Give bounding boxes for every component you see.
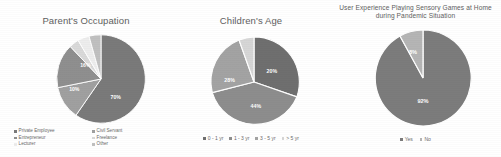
- pie-chart-user-experience: 92% 8%: [373, 28, 473, 128]
- pie-chart-childrens-age: 20% 44% 28%: [207, 35, 301, 129]
- legend-label-1-3-yr: 1 - 3 yr: [234, 136, 250, 141]
- legend-item-freelance[interactable]: Freelance: [92, 136, 170, 141]
- pie-label-1-3-yr: 44%: [251, 103, 262, 109]
- pie-svg-parents-occupation: 70% 10% 16%: [55, 33, 147, 125]
- legend-item-over-5-yr[interactable]: > 5 yr: [282, 136, 299, 141]
- legend-item-yes[interactable]: Yes: [400, 137, 413, 142]
- legend-label-lecturer: Lecturer: [19, 142, 36, 147]
- legend-item-entrepreneur[interactable]: Entrepreneur: [14, 136, 92, 141]
- legend-swatch-icon-civil-servant: [92, 130, 95, 133]
- legend-swatch-icon-entrepreneur: [14, 137, 17, 140]
- pie-label-private-employee: 70%: [111, 94, 122, 100]
- legend-item-3-5-yr[interactable]: 3 - 5 yr: [255, 136, 275, 141]
- legend-label-over-5-yr: > 5 yr: [286, 136, 299, 141]
- legend-swatch-icon-over-5-yr: [282, 137, 285, 140]
- legend-item-no[interactable]: No: [420, 137, 431, 142]
- legend-swatch-icon-other: [92, 143, 95, 146]
- legend-item-0-1-yr[interactable]: 0 - 1 yr: [203, 136, 223, 141]
- legend-item-1-3-yr[interactable]: 1 - 3 yr: [229, 136, 249, 141]
- pie-label-0-1-yr: 20%: [267, 68, 278, 74]
- pie-label-no: 8%: [409, 49, 417, 55]
- chart-panel-childrens-age: Children's Age 20% 44% 28%: [172, 0, 330, 157]
- pie-slices: [57, 35, 146, 123]
- pie-label-yes: 92%: [417, 98, 428, 104]
- legend-item-civil-servant[interactable]: Civil Servant: [92, 129, 170, 134]
- legend-user-experience: Yes No: [330, 137, 501, 142]
- legend-item-other[interactable]: Other: [92, 142, 170, 147]
- chart-title-user-experience: User Experience Playing Sensory Games at…: [330, 4, 501, 20]
- legend-item-private-employee[interactable]: Private Employee: [14, 129, 92, 134]
- pie-slices: [375, 30, 471, 126]
- legend-label-other: Other: [97, 142, 109, 147]
- legend-label-freelance: Freelance: [97, 136, 117, 141]
- legend-label-3-5-yr: 3 - 5 yr: [260, 136, 276, 141]
- legend-label-entrepreneur: Entrepreneur: [19, 136, 46, 141]
- legend-swatch-icon-private-employee: [14, 130, 17, 133]
- legend-item-lecturer[interactable]: Lecturer: [14, 142, 92, 147]
- legend-swatch-icon-3-5-yr: [255, 137, 258, 140]
- pie-chart-parents-occupation: 70% 10% 16%: [55, 33, 147, 125]
- chart-title-parents-occupation: Parent's Occupation: [0, 15, 172, 27]
- legend-parents-occupation: Private Employee Civil Servant Entrepren…: [14, 129, 170, 147]
- pie-label-3-5-yr: 28%: [224, 77, 235, 83]
- pie-label-entrepreneur: 16%: [80, 62, 91, 68]
- legend-swatch-icon-1-3-yr: [229, 137, 232, 140]
- pie-label-civil-servant: 10%: [69, 86, 80, 92]
- legend-label-yes: Yes: [405, 137, 413, 142]
- legend-swatch-icon-lecturer: [14, 143, 17, 146]
- legend-label-no: No: [424, 137, 430, 142]
- legend-swatch-icon-no: [420, 138, 423, 141]
- chart-title-childrens-age: Children's Age: [172, 15, 330, 27]
- legend-label-0-1-yr: 0 - 1 yr: [208, 136, 224, 141]
- legend-swatch-icon-yes: [400, 138, 403, 141]
- pie-svg-childrens-age: 20% 44% 28%: [207, 35, 301, 129]
- legend-label-private-employee: Private Employee: [19, 129, 55, 134]
- chart-panel-user-experience: User Experience Playing Sensory Games at…: [330, 0, 501, 157]
- legend-label-civil-servant: Civil Servant: [97, 129, 123, 134]
- pie-svg-user-experience: 92% 8%: [373, 28, 473, 128]
- figure-three-pie-charts: Parent's Occupation 70%: [0, 0, 501, 157]
- legend-childrens-age: 0 - 1 yr 1 - 3 yr 3 - 5 yr > 5 yr: [172, 136, 330, 141]
- chart-panel-parents-occupation: Parent's Occupation 70%: [0, 0, 172, 157]
- legend-swatch-icon-freelance: [92, 137, 95, 140]
- legend-swatch-icon-0-1-yr: [203, 137, 206, 140]
